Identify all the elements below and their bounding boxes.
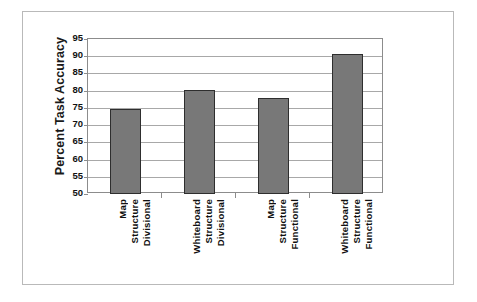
y-axis-tick-mark <box>84 39 88 40</box>
y-axis-tick-mark <box>84 194 88 195</box>
x-axis-category-word: Structure <box>203 199 214 243</box>
y-axis-tick-label: 80 <box>59 85 83 95</box>
chart-figure: Percent Task Accuracy 959085807570656055… <box>0 0 477 302</box>
x-axis-category-word: Whiteboard <box>191 199 202 254</box>
x-axis-category-word: Whiteboard <box>339 199 350 254</box>
plot-area <box>87 38 383 193</box>
y-axis-tick-label: 50 <box>59 188 83 198</box>
y-axis-tick-mark <box>84 177 88 178</box>
y-axis-tick-label: 70 <box>59 119 83 129</box>
y-axis-tick-label: 60 <box>59 154 83 164</box>
bar <box>184 90 215 194</box>
y-axis-tick-mark <box>84 142 88 143</box>
x-axis-category-word: Structure <box>351 199 362 243</box>
x-axis-tick-mark <box>235 193 236 198</box>
x-axis-category-word: Functional <box>289 199 300 250</box>
y-axis-tick-mark <box>84 108 88 109</box>
y-axis-tick-label: 75 <box>59 102 83 112</box>
y-axis-tick-mark <box>84 73 88 74</box>
y-axis-tick-label: 65 <box>59 136 83 146</box>
bar <box>110 109 141 194</box>
x-axis-category-label: DivisionalStructureWhiteboard <box>170 199 226 291</box>
x-axis-category-word: Map <box>265 199 276 219</box>
y-axis-tick-label: 95 <box>59 33 83 43</box>
x-axis-category-label: FunctionalStructureWhiteboard <box>318 199 374 291</box>
x-axis-category-label: DivisionalStructureMap <box>96 199 152 291</box>
y-axis-tick-label: 90 <box>59 50 83 60</box>
x-axis-category-word: Structure <box>277 199 288 243</box>
y-axis-tick-label: 85 <box>59 67 83 77</box>
y-axis-tick-mark <box>84 160 88 161</box>
x-axis-category-word: Functional <box>363 199 374 250</box>
x-axis-category-word: Structure <box>129 199 140 243</box>
x-axis-category-word: Divisional <box>141 199 152 246</box>
y-axis-tick-labels: 95908580757065605550 <box>55 38 83 193</box>
y-axis-tick-label: 55 <box>59 171 83 181</box>
x-axis-category-label: FunctionalStructureMap <box>244 199 300 291</box>
x-axis-tick-mark <box>309 193 310 198</box>
x-axis-category-word: Map <box>117 199 128 219</box>
bar <box>332 54 363 194</box>
bar <box>258 98 289 194</box>
y-axis-tick-mark <box>84 91 88 92</box>
y-axis-tick-mark <box>84 56 88 57</box>
x-axis-category-word: Divisional <box>215 199 226 246</box>
x-axis-tick-mark <box>161 193 162 198</box>
y-axis-tick-mark <box>84 125 88 126</box>
